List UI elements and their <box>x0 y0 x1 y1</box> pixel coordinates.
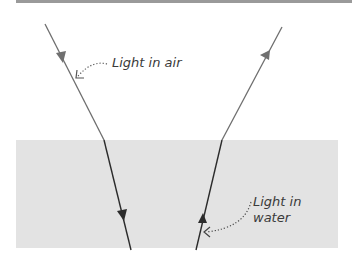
label-light-in-air: Light in air <box>112 55 181 71</box>
ray-air-right <box>222 27 282 140</box>
label-light-in-water-line1: Light in <box>253 194 301 210</box>
pointer-arrow-air <box>78 63 107 76</box>
incident-ray-air <box>45 24 104 140</box>
refraction-diagram <box>0 0 352 264</box>
label-light-in-water-line2: water <box>253 210 290 226</box>
